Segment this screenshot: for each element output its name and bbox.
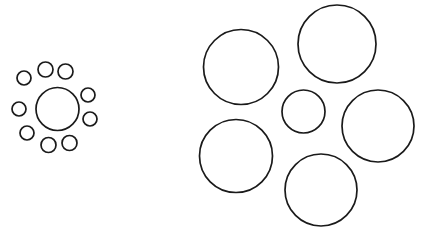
illusion-canvas <box>0 0 422 237</box>
ebbinghaus-illusion-figure <box>0 0 422 237</box>
canvas-background <box>0 0 422 237</box>
